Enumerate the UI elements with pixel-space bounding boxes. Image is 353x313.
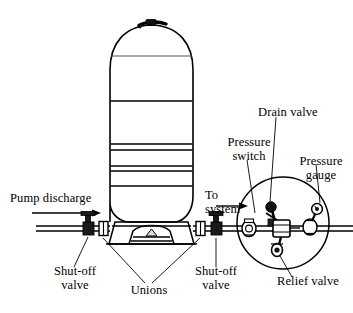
relief-valve-label: Relief valve [277, 275, 339, 289]
leader-lines [74, 117, 320, 283]
drain-valve-label: Drain valve [258, 106, 318, 120]
left-union-fitting [99, 222, 108, 236]
pressure-tank [110, 25, 193, 222]
pressure-gauge-fitting [303, 204, 322, 235]
tank-top-fitting [136, 20, 166, 29]
to-system-label: To system [205, 189, 240, 216]
shutoff-valve-right-label: Shut-off valve [181, 265, 251, 292]
left-shutoff-valve [81, 212, 95, 236]
pressure-switch-label: Pressure switch [216, 136, 282, 163]
pump-discharge-label: Pump discharge [10, 192, 91, 206]
pressure-switch-fitting [242, 219, 256, 237]
pressure-gauge-label: Pressure gauge [290, 155, 352, 182]
tank-base-skirt [106, 222, 197, 244]
diagram-page: Pump discharge To system Shut-off valve … [0, 0, 353, 313]
shutoff-valve-left-label: Shut-off valve [40, 265, 110, 292]
tank-seam-lines-dark [111, 101, 193, 186]
right-union-fitting [196, 222, 205, 236]
unions-label: Unions [119, 284, 179, 298]
